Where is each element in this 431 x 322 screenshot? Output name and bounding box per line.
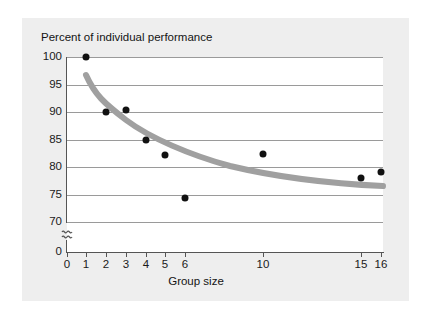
x-tick-label-6: 6 bbox=[182, 258, 188, 270]
x-tick-label-0: 0 bbox=[64, 258, 70, 270]
x-tick-label-16: 16 bbox=[375, 258, 388, 270]
x-tick-mark bbox=[126, 253, 127, 257]
x-tick-mark bbox=[86, 253, 87, 257]
x-tick-label-1: 1 bbox=[83, 258, 89, 270]
x-tick-label-10: 10 bbox=[257, 258, 270, 270]
x-tick-label-5: 5 bbox=[162, 258, 168, 270]
chart-screenshot: 100 95 90 85 80 75 70 0 0 1 2 3 4 5 6 10… bbox=[0, 0, 431, 322]
x-tick-mark bbox=[361, 253, 362, 257]
x-tick-label-15: 15 bbox=[355, 258, 368, 270]
x-tick-label-2: 2 bbox=[103, 258, 109, 270]
x-tick-mark bbox=[165, 253, 166, 257]
x-tick-label-4: 4 bbox=[143, 258, 149, 270]
x-tick-mark bbox=[185, 253, 186, 257]
x-axis-title: Group size bbox=[168, 275, 224, 287]
chart-title: Percent of individual performance bbox=[41, 31, 212, 43]
x-tick-mark bbox=[67, 253, 68, 257]
x-tick-mark bbox=[146, 253, 147, 257]
x-tick-mark bbox=[263, 253, 264, 257]
x-tick-mark bbox=[106, 253, 107, 257]
x-tick-label-3: 3 bbox=[123, 258, 129, 270]
x-tick-mark bbox=[381, 253, 382, 257]
x-axis-tick-labels: 0 1 2 3 4 5 6 10 15 16 bbox=[0, 0, 431, 322]
